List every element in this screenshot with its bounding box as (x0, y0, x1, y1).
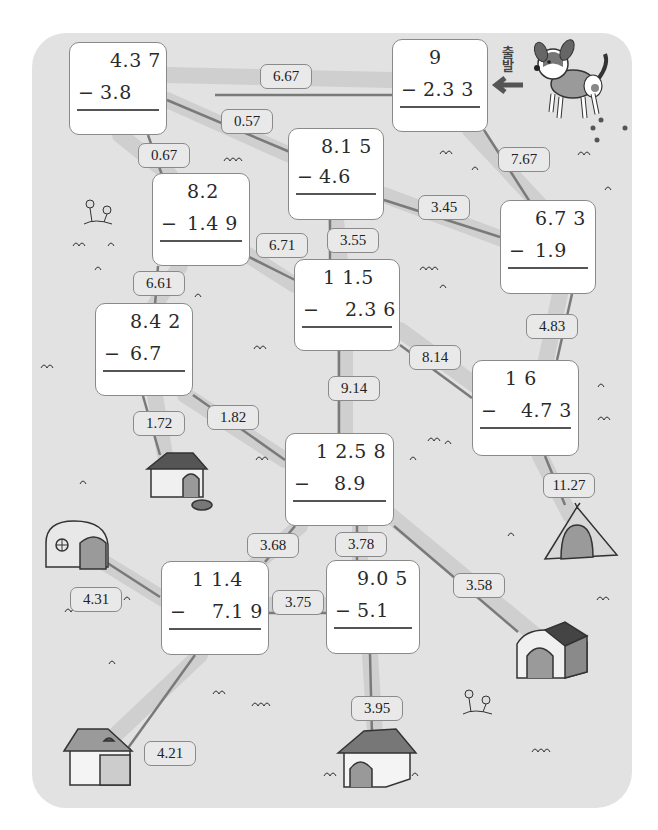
answer-label[interactable]: 4.31 (70, 587, 122, 612)
minus-sign: − (294, 472, 310, 494)
subtrahend: 5.1 (357, 599, 419, 621)
answer-label[interactable]: 6.71 (256, 233, 308, 258)
answer-label[interactable]: 8.14 (409, 345, 461, 370)
answer-line (169, 628, 261, 630)
minuend: 1 2.5 8 (316, 440, 393, 462)
flower-icon (84, 200, 112, 224)
answer-label[interactable]: 4.21 (144, 741, 196, 766)
answer-label[interactable]: 0.57 (221, 109, 273, 134)
answer-line (293, 500, 386, 502)
answer-label[interactable]: 3.45 (418, 195, 470, 220)
answer-label[interactable]: 3.95 (351, 696, 403, 721)
answer-line (480, 427, 571, 429)
subtrahend: 8.9 (334, 472, 393, 494)
subtraction-card-p3[interactable]: 8.1 5−4.6 (288, 128, 384, 220)
answer-label[interactable]: 6.67 (260, 64, 312, 89)
subtrahend: 7.1 9 (212, 600, 268, 622)
minuend: 1 1.4 (192, 568, 268, 590)
answer-label[interactable]: 0.67 (138, 143, 190, 168)
minus-sign: − (104, 342, 120, 364)
minus-sign: − (303, 298, 319, 320)
minus-sign: − (170, 600, 186, 622)
subtraction-card-p11[interactable]: 9.0 5−5.1 (326, 560, 420, 654)
answer-line (334, 627, 412, 629)
subtraction-card-p4[interactable]: 8.2−1.4 9 (152, 173, 250, 266)
subtraction-card-p8[interactable]: 1 6−4.7 3 (472, 360, 579, 456)
doghouse-gable-icon (147, 453, 212, 510)
answer-label[interactable]: 9.14 (328, 376, 380, 401)
subtrahend: 6.7 (130, 342, 192, 364)
answer-label[interactable]: 11.27 (543, 473, 595, 498)
minus-sign: − (78, 81, 94, 103)
answer-label[interactable]: 3.68 (247, 533, 299, 558)
answer-line (77, 109, 159, 111)
answer-line (302, 326, 392, 328)
minuend: 1 1.5 (323, 266, 399, 288)
answer-line (400, 106, 480, 108)
minuend: 8.1 5 (321, 135, 383, 157)
answer-label[interactable]: 3.78 (335, 532, 387, 557)
subtrahend: 1.9 (535, 239, 595, 261)
answer-label[interactable]: 4.83 (526, 314, 578, 339)
minuend: 9 (429, 46, 487, 68)
minuend: 9.0 5 (357, 567, 419, 589)
subtraction-card-p6[interactable]: 1 1.5−2.3 6 (294, 259, 400, 351)
dome-kennel-icon (46, 521, 108, 569)
answer-line (296, 193, 376, 195)
answer-line (160, 240, 242, 242)
answer-label[interactable]: 3.58 (453, 573, 505, 598)
minus-sign: − (335, 599, 351, 621)
minus-sign: − (297, 165, 313, 187)
answer-label[interactable]: 1.72 (133, 411, 185, 436)
answer-line (508, 267, 588, 269)
subtrahend: 4.6 (319, 165, 383, 187)
subtrahend: 4.7 3 (521, 399, 578, 421)
minuend: 8.2 (187, 180, 249, 202)
subtrahend: 2.3 3 (423, 78, 487, 100)
minuend: 4.3 7 (110, 49, 166, 71)
answer-line (103, 370, 185, 372)
subtrahend: 1.4 9 (187, 212, 249, 234)
answer-label[interactable]: 7.67 (498, 147, 550, 172)
tent-icon (545, 503, 617, 559)
subtraction-card-p9[interactable]: 1 2.5 8−8.9 (285, 433, 394, 526)
dog-character-icon (532, 37, 606, 118)
flower-icon (463, 690, 492, 714)
answer-label[interactable]: 3.55 (327, 228, 379, 253)
shingle-doghouse-icon (338, 729, 416, 787)
minus-sign: − (509, 239, 525, 261)
subtraction-card-p10[interactable]: 1 1.4−7.1 9 (161, 561, 269, 655)
answer-label[interactable]: 1.82 (207, 405, 259, 430)
start-arrow-icon (496, 78, 523, 92)
answer-label[interactable]: 3.75 (272, 590, 324, 615)
subtraction-card-p5[interactable]: 6.7 3−1.9 (500, 200, 596, 294)
subtrahend: 3.8 (100, 81, 166, 103)
paw-prints-icon (591, 118, 628, 143)
subtraction-card-p7[interactable]: 8.4 2−6.7 (95, 303, 193, 396)
minuend: 1 6 (505, 367, 578, 389)
subtraction-card-p2[interactable]: 9−2.3 3 (392, 39, 488, 132)
minuend: 6.7 3 (535, 207, 595, 229)
subtrahend: 2.3 6 (345, 298, 399, 320)
start-label: 출발 (497, 46, 516, 72)
minus-sign: − (161, 212, 177, 234)
subtraction-card-p1[interactable]: 4.3 7−3.8 (69, 42, 167, 135)
minuend: 8.4 2 (130, 310, 192, 332)
answer-label[interactable]: 6.61 (133, 271, 185, 296)
minus-sign: − (481, 399, 497, 421)
minus-sign: − (401, 78, 417, 100)
